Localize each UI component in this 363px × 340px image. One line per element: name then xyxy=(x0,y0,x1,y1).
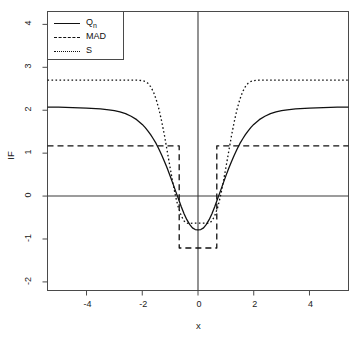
x-tick-label: -2 xyxy=(136,299,150,309)
legend-label: Qn xyxy=(86,17,97,29)
legend-label: MAD xyxy=(86,31,106,41)
y-tick-label: 1 xyxy=(23,142,33,162)
x-tick-label: 0 xyxy=(192,299,206,309)
legend-box: QnMADS xyxy=(47,11,124,60)
y-tick-label: -1 xyxy=(23,228,33,248)
y-tick-label: -2 xyxy=(23,271,33,291)
legend-key-dotted xyxy=(54,51,80,52)
y-axis-title: IF xyxy=(5,151,16,159)
x-tick-label: 2 xyxy=(248,299,262,309)
y-tick-label: 4 xyxy=(23,13,33,33)
x-tick-label: -4 xyxy=(81,299,95,309)
legend-key-solid xyxy=(54,23,80,24)
legend-item-s: S xyxy=(48,45,123,59)
legend-label: S xyxy=(86,45,92,55)
legend-key-dashed xyxy=(54,37,80,38)
y-tick-label: 0 xyxy=(23,185,33,205)
x-tick-label: 4 xyxy=(303,299,317,309)
y-tick-label: 2 xyxy=(23,99,33,119)
x-axis-title: x xyxy=(196,320,201,331)
influence-function-chart: IF x -4-2024 -2-101234 QnMADS xyxy=(0,0,363,340)
y-tick-label: 3 xyxy=(23,56,33,76)
legend-item-mad: MAD xyxy=(48,31,123,45)
legend-item-qn: Qn xyxy=(48,17,123,31)
axis-ticks xyxy=(43,24,310,295)
